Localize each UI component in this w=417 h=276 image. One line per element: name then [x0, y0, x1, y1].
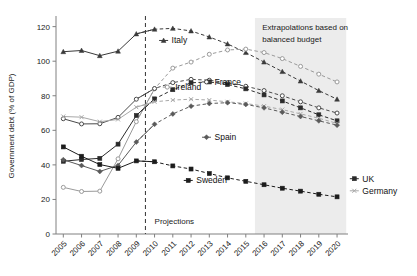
data-point-marker: [226, 48, 230, 52]
data-point-marker: [171, 81, 175, 85]
series-label-text: Sweden: [196, 175, 227, 185]
chart-container: 020406080100120 200520062007200820092010…: [0, 0, 417, 276]
data-point-marker: [317, 72, 321, 76]
data-point-marker: [204, 135, 209, 140]
series-line-historical: [63, 29, 154, 55]
data-point-marker: [317, 192, 321, 196]
data-point-marker: [262, 183, 266, 187]
series-label-uk: UK: [350, 174, 375, 184]
y-axis-title-text: Government debt (% of GDP): [7, 73, 16, 178]
y-tick-label: 20: [41, 195, 50, 204]
data-point-marker: [352, 177, 356, 181]
x-tick-label: 2006: [68, 239, 87, 258]
series-label-spain: Spain: [202, 132, 237, 142]
x-tick-label: 2017: [269, 239, 288, 258]
data-point-marker: [205, 80, 209, 84]
x-tick-label: 2010: [141, 239, 160, 258]
data-point-marker: [80, 154, 84, 158]
data-point-marker: [186, 178, 190, 182]
x-tick-label: 2013: [196, 239, 215, 258]
government-debt-line-chart: 020406080100120 200520062007200820092010…: [0, 0, 417, 276]
series-label-germany: Germany: [350, 186, 398, 196]
data-point-marker: [98, 156, 102, 160]
y-tick-label: 120: [37, 23, 51, 32]
x-tick-label: 2016: [251, 239, 270, 258]
series-label-text: France: [215, 77, 242, 87]
extrapolation-shaded-region: [255, 18, 346, 234]
data-point-marker: [116, 142, 120, 146]
data-point-marker: [280, 186, 284, 190]
y-tick-label: 40: [41, 161, 50, 170]
data-point-marker: [98, 189, 102, 193]
x-tick-label: 2008: [105, 239, 124, 258]
series-label-text: Italy: [172, 35, 188, 45]
data-point-marker: [262, 93, 266, 97]
series-label-text: Germany: [362, 186, 398, 196]
series-label-sweden: Sweden: [184, 175, 227, 185]
data-point-marker: [189, 104, 194, 109]
series-label-italy: Italy: [159, 35, 188, 45]
series-label-text: Ireland: [175, 82, 201, 92]
data-point-marker: [280, 57, 284, 61]
data-point-marker: [80, 122, 84, 126]
x-tick-label: 2007: [86, 239, 105, 258]
data-point-marker: [134, 159, 138, 163]
x-tick-label: 2020: [324, 239, 343, 258]
data-point-marker: [243, 102, 248, 107]
data-point-marker: [189, 60, 193, 64]
y-axis-title: Government debt (% of GDP): [7, 73, 16, 178]
data-point-marker: [97, 169, 102, 174]
data-point-marker: [171, 164, 175, 168]
data-point-marker: [165, 85, 169, 89]
x-tick-label: 2011: [160, 239, 179, 258]
data-point-marker: [244, 47, 248, 51]
x-tick-label: 2019: [305, 239, 324, 258]
data-point-marker: [171, 66, 175, 70]
series-line-historical: [63, 89, 154, 192]
data-point-marker: [171, 88, 175, 92]
data-point-marker: [189, 167, 193, 171]
data-point-marker: [299, 106, 303, 110]
data-point-marker: [280, 94, 284, 98]
data-point-marker: [153, 87, 157, 91]
x-axis-ticks: 2005200620072008200920102011201220132014…: [50, 234, 343, 258]
annotation-extrapolations: Extrapolations based on: [262, 23, 348, 32]
y-tick-label: 60: [41, 126, 50, 135]
x-tick-label: 2014: [214, 239, 233, 258]
data-point-marker: [299, 189, 303, 193]
x-tick-label: 2005: [50, 239, 69, 258]
data-point-marker: [335, 111, 339, 115]
data-point-marker: [80, 189, 84, 193]
data-point-marker: [262, 89, 266, 93]
data-point-marker: [335, 195, 339, 199]
data-point-marker: [280, 99, 284, 103]
data-point-marker: [335, 80, 339, 84]
series-line-historical: [63, 124, 154, 171]
data-point-marker: [244, 179, 248, 183]
data-point-marker: [116, 166, 120, 170]
data-point-marker: [153, 160, 157, 164]
x-tick-label: 2009: [123, 239, 142, 258]
data-point-marker: [225, 100, 230, 105]
data-point-marker: [61, 185, 65, 189]
annotation-projections: Projections: [155, 217, 195, 226]
data-point-marker: [61, 145, 65, 149]
series-label-text: Spain: [215, 132, 237, 142]
x-tick-label: 2018: [287, 239, 306, 258]
data-point-marker: [79, 163, 84, 168]
x-tick-label: 2012: [178, 239, 197, 258]
data-point-marker: [116, 157, 120, 161]
data-point-marker: [189, 29, 194, 33]
x-tick-label: 2015: [232, 239, 251, 258]
data-point-marker: [299, 100, 303, 104]
y-axis-ticks: 020406080100120: [37, 23, 56, 239]
data-point-marker: [207, 52, 211, 56]
data-point-marker: [98, 163, 102, 167]
series-line-historical: [63, 99, 154, 161]
data-point-marker: [299, 64, 303, 68]
y-tick-label: 100: [37, 57, 51, 66]
series-line-historical: [63, 147, 154, 168]
data-point-marker: [170, 111, 175, 116]
shaded-band: [255, 18, 346, 234]
y-tick-label: 0: [46, 230, 51, 239]
